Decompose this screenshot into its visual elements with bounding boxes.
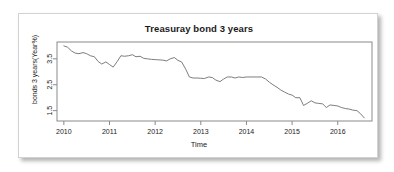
y-axis-ticks: 1.52.53.5 (47, 54, 58, 116)
bond-yield-series (64, 46, 364, 118)
svg-text:3.5: 3.5 (47, 54, 54, 64)
svg-text:2015: 2015 (284, 128, 300, 135)
svg-text:2016: 2016 (330, 128, 346, 135)
x-axis-ticks: 2010201120122013201420152016 (56, 121, 346, 135)
svg-text:2012: 2012 (147, 128, 163, 135)
svg-text:1.5: 1.5 (47, 106, 54, 116)
svg-text:2010: 2010 (56, 128, 72, 135)
screenshot-root: Treasuray bond 3 years bonds 3 years(Yea… (0, 0, 394, 172)
svg-text:2.5: 2.5 (47, 80, 54, 90)
svg-text:2013: 2013 (193, 128, 209, 135)
plot-frame (57, 42, 372, 121)
svg-text:2014: 2014 (239, 128, 255, 135)
line-chart-plot: 1.52.53.5 2010201120122013201420152016 (19, 14, 379, 159)
svg-text:2011: 2011 (102, 128, 117, 135)
chart-card: Treasuray bond 3 years bonds 3 years(Yea… (18, 13, 378, 158)
